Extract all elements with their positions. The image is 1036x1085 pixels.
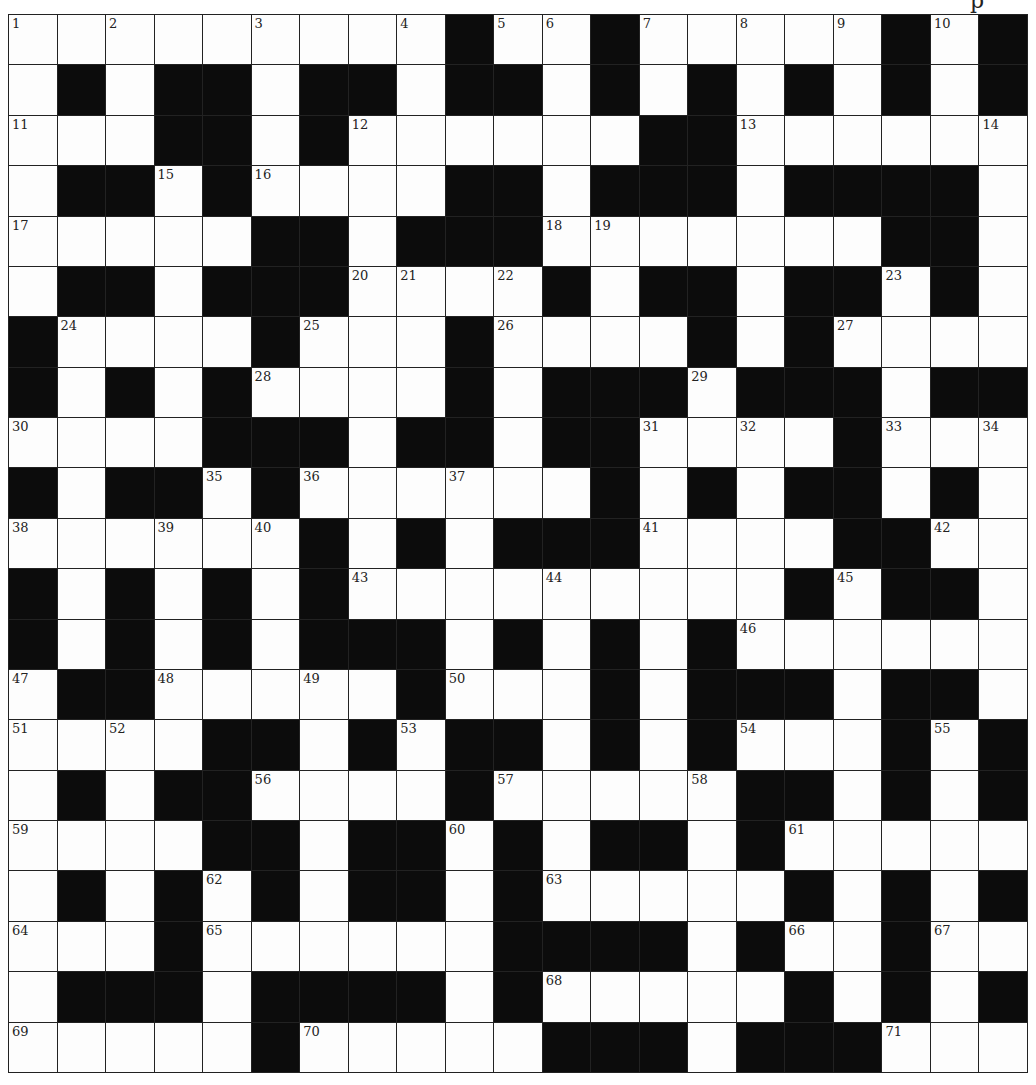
answer-cell[interactable] bbox=[252, 65, 300, 114]
answer-cell[interactable] bbox=[397, 468, 445, 517]
answer-cell[interactable] bbox=[785, 116, 833, 165]
answer-cell[interactable] bbox=[446, 1023, 494, 1072]
answer-cell[interactable]: 9 bbox=[834, 15, 882, 64]
answer-cell[interactable] bbox=[300, 166, 348, 215]
answer-cell[interactable] bbox=[203, 15, 251, 64]
answer-cell[interactable] bbox=[106, 771, 154, 820]
answer-cell[interactable] bbox=[640, 720, 688, 769]
answer-cell[interactable] bbox=[882, 620, 930, 669]
answer-cell[interactable] bbox=[397, 569, 445, 618]
answer-cell[interactable] bbox=[203, 317, 251, 366]
answer-cell[interactable]: 70 bbox=[300, 1023, 348, 1072]
answer-cell[interactable]: 47 bbox=[9, 670, 57, 719]
answer-cell[interactable]: 59 bbox=[9, 821, 57, 870]
answer-cell[interactable]: 41 bbox=[640, 519, 688, 568]
answer-cell[interactable] bbox=[543, 468, 591, 517]
answer-cell[interactable]: 45 bbox=[834, 569, 882, 618]
answer-cell[interactable] bbox=[494, 670, 542, 719]
answer-cell[interactable] bbox=[785, 620, 833, 669]
answer-cell[interactable] bbox=[688, 972, 736, 1021]
answer-cell[interactable] bbox=[106, 65, 154, 114]
answer-cell[interactable] bbox=[834, 922, 882, 971]
answer-cell[interactable] bbox=[494, 418, 542, 467]
answer-cell[interactable] bbox=[58, 1023, 106, 1072]
answer-cell[interactable] bbox=[931, 418, 979, 467]
answer-cell[interactable] bbox=[446, 871, 494, 920]
answer-cell[interactable] bbox=[58, 720, 106, 769]
answer-cell[interactable]: 10 bbox=[931, 15, 979, 64]
answer-cell[interactable] bbox=[106, 317, 154, 366]
answer-cell[interactable] bbox=[300, 922, 348, 971]
answer-cell[interactable]: 19 bbox=[591, 217, 639, 266]
answer-cell[interactable] bbox=[834, 116, 882, 165]
answer-cell[interactable]: 17 bbox=[9, 217, 57, 266]
answer-cell[interactable] bbox=[785, 720, 833, 769]
answer-cell[interactable] bbox=[834, 65, 882, 114]
answer-cell[interactable] bbox=[737, 166, 785, 215]
answer-cell[interactable] bbox=[106, 519, 154, 568]
answer-cell[interactable] bbox=[591, 972, 639, 1021]
answer-cell[interactable] bbox=[931, 317, 979, 366]
answer-cell[interactable] bbox=[349, 1023, 397, 1072]
answer-cell[interactable] bbox=[834, 620, 882, 669]
answer-cell[interactable] bbox=[58, 821, 106, 870]
answer-cell[interactable] bbox=[494, 1023, 542, 1072]
answer-cell[interactable] bbox=[58, 519, 106, 568]
answer-cell[interactable]: 12 bbox=[349, 116, 397, 165]
answer-cell[interactable]: 49 bbox=[300, 670, 348, 719]
answer-cell[interactable] bbox=[543, 65, 591, 114]
answer-cell[interactable] bbox=[300, 771, 348, 820]
answer-cell[interactable]: 6 bbox=[543, 15, 591, 64]
answer-cell[interactable] bbox=[349, 519, 397, 568]
answer-cell[interactable]: 60 bbox=[446, 821, 494, 870]
answer-cell[interactable] bbox=[349, 771, 397, 820]
answer-cell[interactable] bbox=[688, 871, 736, 920]
answer-cell[interactable] bbox=[640, 972, 688, 1021]
answer-cell[interactable]: 38 bbox=[9, 519, 57, 568]
answer-cell[interactable] bbox=[155, 317, 203, 366]
answer-cell[interactable]: 68 bbox=[543, 972, 591, 1021]
answer-cell[interactable] bbox=[543, 317, 591, 366]
answer-cell[interactable]: 1 bbox=[9, 15, 57, 64]
answer-cell[interactable] bbox=[979, 267, 1027, 316]
answer-cell[interactable] bbox=[882, 317, 930, 366]
answer-cell[interactable] bbox=[58, 468, 106, 517]
answer-cell[interactable] bbox=[397, 922, 445, 971]
answer-cell[interactable] bbox=[834, 720, 882, 769]
answer-cell[interactable] bbox=[252, 922, 300, 971]
answer-cell[interactable] bbox=[155, 368, 203, 417]
answer-cell[interactable]: 21 bbox=[397, 267, 445, 316]
answer-cell[interactable] bbox=[203, 972, 251, 1021]
answer-cell[interactable] bbox=[106, 871, 154, 920]
answer-cell[interactable] bbox=[252, 670, 300, 719]
answer-cell[interactable] bbox=[591, 317, 639, 366]
answer-cell[interactable] bbox=[591, 116, 639, 165]
answer-cell[interactable] bbox=[494, 116, 542, 165]
answer-cell[interactable]: 27 bbox=[834, 317, 882, 366]
answer-cell[interactable] bbox=[58, 418, 106, 467]
answer-cell[interactable] bbox=[397, 1023, 445, 1072]
answer-cell[interactable]: 30 bbox=[9, 418, 57, 467]
answer-cell[interactable] bbox=[252, 569, 300, 618]
answer-cell[interactable] bbox=[494, 569, 542, 618]
answer-cell[interactable] bbox=[834, 821, 882, 870]
answer-cell[interactable] bbox=[446, 922, 494, 971]
answer-cell[interactable]: 65 bbox=[203, 922, 251, 971]
answer-cell[interactable] bbox=[9, 267, 57, 316]
answer-cell[interactable] bbox=[979, 166, 1027, 215]
answer-cell[interactable] bbox=[397, 771, 445, 820]
answer-cell[interactable] bbox=[640, 670, 688, 719]
answer-cell[interactable]: 66 bbox=[785, 922, 833, 971]
answer-cell[interactable] bbox=[737, 267, 785, 316]
answer-cell[interactable]: 11 bbox=[9, 116, 57, 165]
answer-cell[interactable] bbox=[640, 65, 688, 114]
answer-cell[interactable]: 31 bbox=[640, 418, 688, 467]
answer-cell[interactable]: 32 bbox=[737, 418, 785, 467]
answer-cell[interactable] bbox=[397, 166, 445, 215]
answer-cell[interactable] bbox=[591, 771, 639, 820]
answer-cell[interactable] bbox=[446, 116, 494, 165]
answer-cell[interactable] bbox=[931, 116, 979, 165]
answer-cell[interactable]: 35 bbox=[203, 468, 251, 517]
answer-cell[interactable] bbox=[300, 368, 348, 417]
answer-cell[interactable] bbox=[155, 620, 203, 669]
